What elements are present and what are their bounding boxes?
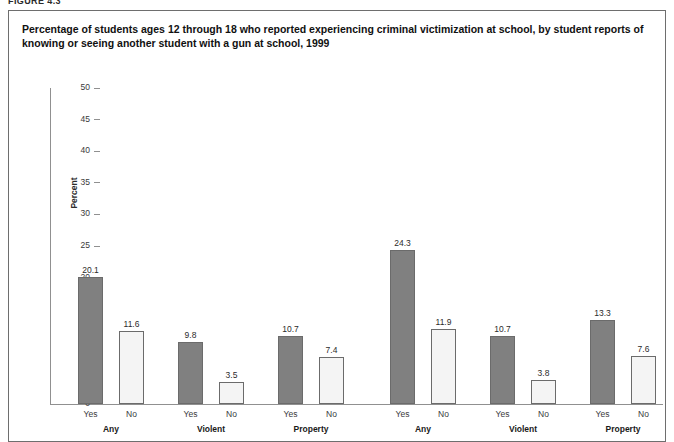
y-axis-tick-mark <box>94 119 100 120</box>
y-axis-tick-mark <box>94 214 100 215</box>
figure-number: FIGURE 4.3 <box>8 0 61 6</box>
bar-no: 3.5 <box>219 382 244 404</box>
bar-value-label: 9.8 <box>185 330 197 340</box>
x-axis-label-no: No <box>112 409 152 420</box>
bar-value-label: 7.6 <box>638 344 650 354</box>
y-axis-tick-label: 35 <box>50 177 90 188</box>
group-label-any: Any <box>378 424 468 435</box>
bar-no: 11.9 <box>431 329 456 404</box>
bar-value-label: 10.7 <box>494 324 511 334</box>
bar-value-label: 13.3 <box>594 308 611 318</box>
bar-yes: 24.3 <box>390 250 415 404</box>
x-axis-label-yes: Yes <box>483 409 523 420</box>
y-axis-tick-mark <box>94 151 100 152</box>
bar-no: 7.6 <box>631 356 656 404</box>
y-axis-tick-label: 25 <box>50 240 90 251</box>
bar-value-label: 3.8 <box>538 368 550 378</box>
bar-value-label: 7.4 <box>326 345 338 355</box>
bar-value-label: 20.1 <box>82 265 99 275</box>
bar-no: 7.4 <box>319 357 344 404</box>
y-axis-tick-label: 45 <box>50 114 90 125</box>
x-axis-label-no: No <box>424 409 464 420</box>
y-axis-tick-mark <box>94 182 100 183</box>
x-axis-label-no: No <box>212 409 252 420</box>
y-axis-tick-label: 30 <box>50 208 90 219</box>
bar-yes: 10.7 <box>278 336 303 404</box>
figure-title: Percentage of students ages 12 through 1… <box>22 22 660 50</box>
group-label-property: Property <box>578 424 668 435</box>
x-axis-label-no: No <box>524 409 564 420</box>
group-label-violent: Violent <box>166 424 256 435</box>
y-axis-tick-mark <box>94 88 100 89</box>
x-axis-label-yes: Yes <box>383 409 423 420</box>
bar-value-label: 11.9 <box>436 317 452 327</box>
x-axis-label-yes: Yes <box>71 409 111 420</box>
bar-value-label: 3.5 <box>226 370 238 380</box>
x-axis-label-no: No <box>312 409 352 420</box>
bar-no: 11.6 <box>119 331 144 404</box>
bar-value-label: 24.3 <box>394 238 411 248</box>
y-axis-tick-label: 50 <box>50 82 90 93</box>
y-axis-tick-mark <box>94 246 100 247</box>
x-axis-label-no: No <box>624 409 664 420</box>
bar-value-label: 10.7 <box>282 324 299 334</box>
plot-area: Percent 0510152025303540455020.111.69.83… <box>50 88 660 404</box>
group-label-violent: Violent <box>478 424 568 435</box>
bar-no: 3.8 <box>531 380 556 404</box>
x-axis-line <box>50 404 663 405</box>
group-label-property: Property <box>266 424 356 435</box>
bar-yes: 9.8 <box>178 342 203 404</box>
group-label-any: Any <box>66 424 156 435</box>
bar-yes: 13.3 <box>590 320 615 404</box>
x-axis-label-yes: Yes <box>271 409 311 420</box>
bar-yes: 20.1 <box>78 277 103 404</box>
x-axis-label-yes: Yes <box>171 409 211 420</box>
bar-yes: 10.7 <box>490 336 515 404</box>
bar-value-label: 11.6 <box>124 319 140 329</box>
x-axis-label-yes: Yes <box>583 409 623 420</box>
y-axis-tick-label: 40 <box>50 145 90 156</box>
